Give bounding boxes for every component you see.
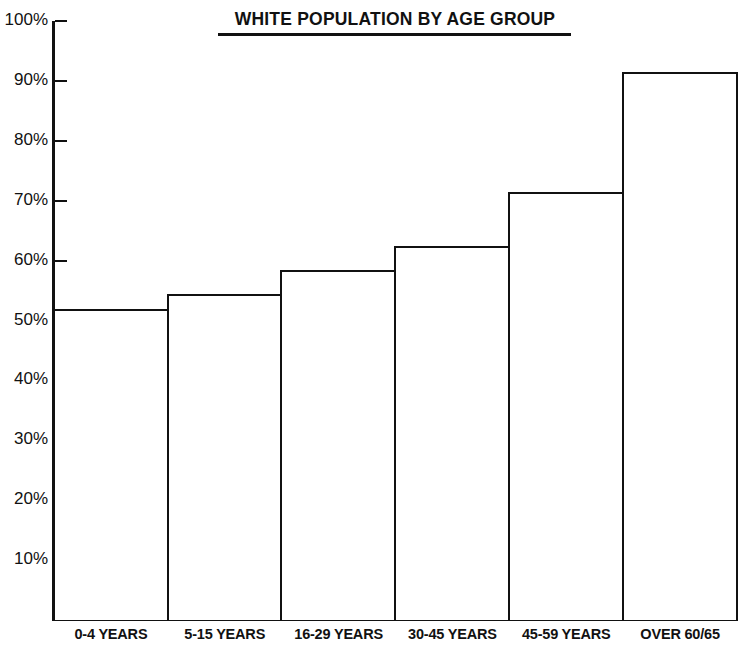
bar[interactable] bbox=[508, 192, 624, 620]
bar[interactable] bbox=[280, 270, 396, 620]
x-axis-labels: 0-4 YEARS5-15 YEARS16-29 YEARS30-45 YEAR… bbox=[0, 626, 741, 656]
bar[interactable] bbox=[53, 309, 169, 620]
bars-layer bbox=[0, 0, 741, 656]
bar[interactable] bbox=[167, 294, 283, 620]
x-axis-label: 16-29 YEARS bbox=[282, 626, 396, 642]
x-axis-label: 30-45 YEARS bbox=[396, 626, 510, 642]
chart-container: WHITE POPULATION BY AGE GROUP 100%90%80%… bbox=[0, 0, 741, 656]
x-axis-label: 5-15 YEARS bbox=[168, 626, 282, 642]
x-axis-label: 0-4 YEARS bbox=[54, 626, 168, 642]
x-axis-label: 45-59 YEARS bbox=[509, 626, 623, 642]
bar[interactable] bbox=[622, 72, 738, 620]
bar[interactable] bbox=[394, 246, 510, 620]
x-axis-label: OVER 60/65 bbox=[623, 626, 737, 642]
